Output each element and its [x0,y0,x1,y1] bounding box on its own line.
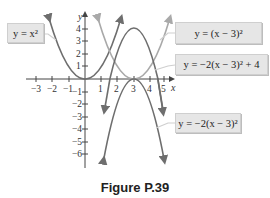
label-inverted-shifted-up: y = −2(x − 3)² + 4 [175,54,268,75]
x-tick-label: 5 [161,84,166,94]
x-tick-label: 3 [131,84,136,94]
label-inverted-shifted: y = −2(x − 3)² [175,113,241,133]
y-tick-label: 4 [76,24,81,34]
x-tick-label: −2 [47,84,57,94]
label-shifted-parabola: y = (x − 3)² [175,22,262,44]
y-tick-label: −5 [72,137,82,147]
y-tick-label: 1 [76,61,81,71]
x-tick-label: 4 [147,84,152,94]
y-tick-label: −6 [72,149,82,159]
y-tick-label: −2 [72,99,82,109]
x-axis-label: x [170,82,176,93]
y-tick-label: −4 [72,124,82,134]
y-tick-label: 2 [76,49,81,59]
y-tick-label: −3 [72,112,82,122]
y-tick-label: 3 [76,36,81,46]
x-tick-label: −3 [31,84,41,94]
x-tick-label: 1 [98,84,103,94]
curve-inverted-shifted-up [110,28,163,110]
label-x-squared: y = x² [7,23,44,43]
y-axis-label: y [77,11,83,22]
figure-caption: Figure P.39 [0,180,270,195]
y-tick-label: −1 [72,87,82,97]
x-tick-label: 2 [114,84,119,94]
